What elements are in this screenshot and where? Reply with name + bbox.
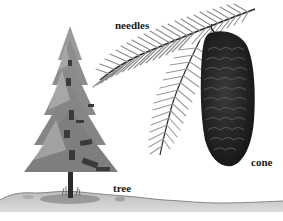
label-cone: cone [251,157,272,168]
cone-illustration [201,24,255,166]
conifer-diagram: needles cone tree [0,0,283,221]
ground [0,191,283,212]
diagram-illustration [0,0,283,221]
label-tree: tree [113,183,131,194]
tree-illustration [24,26,118,198]
label-needles: needles [115,20,149,31]
